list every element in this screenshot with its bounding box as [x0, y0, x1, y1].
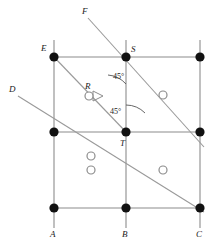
- node-E: [49, 52, 58, 61]
- node-A: [49, 203, 58, 212]
- node-C: [195, 203, 204, 212]
- open-node-lower-left-a: [87, 152, 95, 160]
- label-B: B: [122, 230, 128, 239]
- node-T: [121, 127, 130, 136]
- label-S: S: [131, 45, 136, 54]
- angle-label-lower: 45°: [110, 108, 121, 116]
- geometry-figure: F E S D R T A B C 45° 45°: [0, 0, 213, 243]
- angle-label-upper: 45°: [113, 73, 124, 81]
- label-F: F: [82, 7, 88, 16]
- angle-arc-lower: [126, 105, 145, 113]
- label-T: T: [120, 139, 125, 148]
- node-top-right: [195, 52, 204, 61]
- node-mid-left: [49, 127, 58, 136]
- diagonal-F-to-lower-right: [88, 18, 204, 147]
- label-D: D: [9, 85, 16, 94]
- label-A: A: [50, 230, 56, 239]
- figure-canvas: [0, 0, 213, 243]
- node-mid-right: [195, 127, 204, 136]
- open-node-lower-left-b: [87, 166, 95, 174]
- label-R: R: [85, 82, 91, 91]
- label-C: C: [196, 230, 202, 239]
- open-node-lower-right: [159, 166, 167, 174]
- node-B: [121, 203, 130, 212]
- open-node-R: [85, 92, 93, 100]
- open-node-upper-right: [159, 91, 167, 99]
- node-S: [121, 52, 130, 61]
- label-E: E: [41, 44, 47, 53]
